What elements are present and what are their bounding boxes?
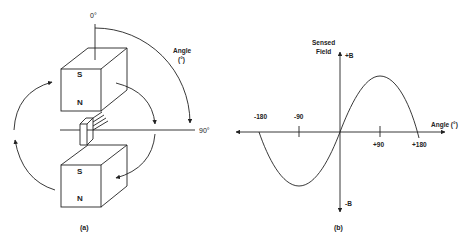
zero-degree-label: 0° bbox=[90, 12, 97, 19]
y-negative-label: -B bbox=[345, 201, 352, 208]
hall-sensor bbox=[80, 112, 108, 145]
angle-arc-arrow bbox=[95, 28, 190, 123]
x-tick-label-plus-180: +180 bbox=[412, 142, 427, 149]
y-axis-title-line2: Field bbox=[316, 49, 331, 56]
panel-a-figure bbox=[14, 24, 195, 207]
sine-curve bbox=[259, 76, 419, 186]
top-magnet-north-label: N bbox=[77, 99, 83, 107]
top-magnet-south-label: S bbox=[77, 71, 82, 79]
ninety-degree-label: 90° bbox=[199, 127, 210, 134]
bottom-magnet bbox=[61, 145, 127, 207]
x-tick-label-plus-90: +90 bbox=[373, 142, 384, 149]
top-magnet bbox=[61, 48, 127, 111]
y-positive-label: +B bbox=[345, 53, 354, 60]
rotation-arrow-right-bottom bbox=[116, 134, 155, 178]
angle-axis-unit: (°) bbox=[178, 57, 185, 64]
x-tick-label-minus-180: -180 bbox=[254, 114, 267, 121]
rotation-arrow-right-top bbox=[116, 83, 155, 124]
rotation-arrow-left-bottom bbox=[15, 140, 55, 190]
bottom-magnet-south-label: S bbox=[77, 168, 82, 176]
bottom-magnet-north-label: N bbox=[77, 195, 83, 203]
panel-a-caption: (a) bbox=[80, 224, 89, 231]
x-axis-label: Angle (°) bbox=[431, 122, 458, 129]
angle-axis-label: Angle bbox=[173, 48, 191, 55]
y-axis-title-line1: Sensed bbox=[312, 40, 335, 47]
rotation-arrow-left-top bbox=[14, 82, 52, 130]
diagram-canvas bbox=[0, 0, 460, 245]
panel-b-caption: (b) bbox=[334, 224, 343, 231]
x-tick-label-minus-90: -90 bbox=[294, 114, 303, 121]
panel-b-chart bbox=[236, 52, 445, 212]
